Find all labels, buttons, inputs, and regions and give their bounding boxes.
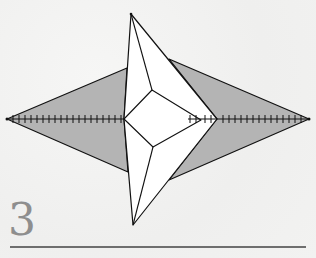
left-tip-dot	[6, 118, 9, 121]
origami-diagram	[0, 0, 316, 258]
top-tip-dot	[130, 13, 133, 16]
diagram-canvas: 3	[0, 0, 316, 258]
step-number: 3	[8, 198, 36, 242]
right-tip-dot	[308, 118, 311, 121]
step-divider	[10, 246, 306, 248]
